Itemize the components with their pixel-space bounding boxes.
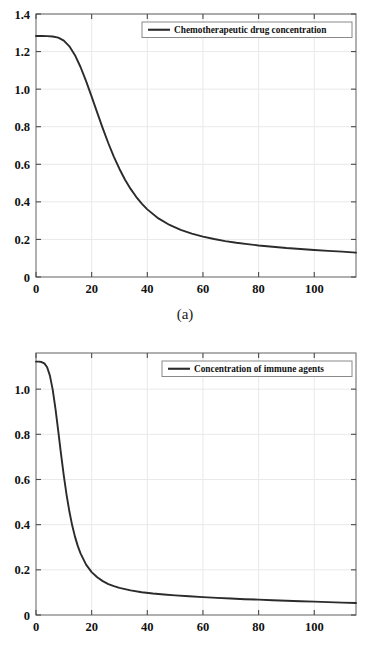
chart-a-wrapper: 00.20.40.60.81.01.21.4020406080100Time (… [0,0,370,300]
tick-marks [36,353,356,615]
x-tick-label: 40 [141,282,154,296]
data-series-line [36,362,356,603]
y-tick-label: 0 [24,609,30,623]
x-tick-label: 20 [85,620,98,634]
data-series-line [36,36,356,253]
y-tick-label: 0.6 [14,473,30,487]
y-tick-label: 0.2 [14,233,30,247]
chart-b-wrapper: 00.20.40.60.81.0020406080100Time (d)Conc… [0,335,370,635]
y-tick-label: 0.2 [14,563,30,577]
x-tick-label: 20 [85,282,98,296]
x-axis-tick-labels: 020406080100 [33,282,324,296]
y-tick-label: 0 [24,271,30,285]
chart-a: 00.20.40.60.81.01.21.4020406080100Time (… [0,0,370,300]
plot-area-border [36,14,356,277]
legend-label: Chemotherapeutic drug concentration [174,25,327,35]
plot-area-border [36,353,356,615]
x-tick-label: 60 [197,282,210,296]
y-axis-tick-labels: 00.20.40.60.81.01.21.4 [14,8,30,285]
legend: Chemotherapeutic drug concentration [142,22,352,38]
x-tick-label: 0 [33,282,39,296]
gridlines [36,14,356,277]
gridlines [36,353,356,615]
y-tick-label: 0.8 [14,120,30,134]
caption-a: (a) [0,306,370,323]
x-tick-label: 80 [252,620,265,634]
y-tick-label: 0.4 [14,195,30,209]
y-tick-label: 1.4 [14,8,30,22]
x-tick-label: 100 [305,620,324,634]
x-axis-tick-labels: 020406080100 [33,620,324,634]
y-axis-tick-labels: 00.20.40.60.81.0 [14,383,30,623]
y-tick-label: 0.8 [14,428,30,442]
y-tick-label: 1.2 [14,45,30,59]
panel-a: 00.20.40.60.81.01.21.4020406080100Time (… [0,0,370,335]
x-tick-label: 100 [305,282,324,296]
x-tick-label: 40 [141,620,154,634]
y-tick-label: 1.0 [14,83,30,97]
y-tick-label: 0.6 [14,158,30,172]
x-tick-label: 60 [197,620,210,634]
figure-container: 00.20.40.60.81.01.21.4020406080100Time (… [0,0,370,671]
chart-b: 00.20.40.60.81.0020406080100Time (d)Conc… [0,335,370,635]
y-tick-label: 1.0 [14,383,30,397]
legend-label: Concentration of immune agents [194,364,324,374]
x-tick-label: 0 [33,620,39,634]
panel-b: 00.20.40.60.81.0020406080100Time (d)Conc… [0,335,370,670]
x-tick-label: 80 [252,282,265,296]
y-tick-label: 0.4 [14,518,30,532]
legend: Concentration of immune agents [162,361,352,377]
tick-marks [36,14,356,277]
